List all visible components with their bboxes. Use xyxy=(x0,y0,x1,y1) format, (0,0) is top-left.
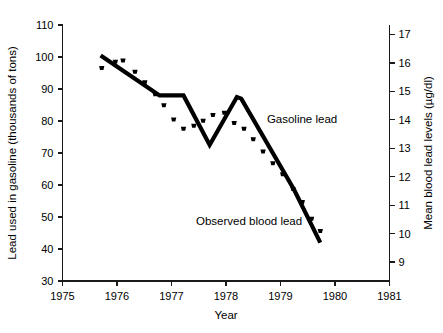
y-axis-left-tick-label: 100 xyxy=(35,51,53,63)
y-axis-left-tick-label: 80 xyxy=(41,115,53,127)
y-axis-left-ticks: 30405060708090100110 xyxy=(35,19,62,287)
annotation-observed-blood-lead: Observed blood lead xyxy=(196,215,302,227)
data-point xyxy=(251,137,256,141)
data-point xyxy=(181,127,186,131)
x-axis-tick-label: 1976 xyxy=(105,290,129,302)
y-axis-left-tick-label: 60 xyxy=(41,179,53,191)
chart-canvas: 30405060708090100110 91011121314151617 1… xyxy=(0,0,443,333)
chart-figure: 30405060708090100110 91011121314151617 1… xyxy=(0,0,443,333)
x-axis-title: Year xyxy=(214,309,237,321)
data-point xyxy=(99,66,104,70)
data-point xyxy=(191,124,196,128)
data-point xyxy=(201,119,206,123)
y-axis-left-tick-label: 50 xyxy=(41,211,53,223)
data-point xyxy=(241,127,246,131)
data-point xyxy=(132,70,137,74)
x-axis-tick-label: 1979 xyxy=(268,290,292,302)
data-point xyxy=(309,217,314,221)
data-point xyxy=(120,58,125,62)
x-axis-ticks: 1975197619771978197919801981 xyxy=(50,281,401,302)
y-axis-right-tick-label: 17 xyxy=(399,28,411,40)
data-point xyxy=(113,60,118,64)
data-point xyxy=(232,121,237,125)
data-point xyxy=(222,111,227,115)
y-axis-left-tick-label: 70 xyxy=(41,147,53,159)
y-axis-right-tick-label: 11 xyxy=(399,199,410,211)
data-point xyxy=(161,103,166,107)
y-axis-right-tick-label: 9 xyxy=(399,256,405,268)
data-point xyxy=(260,149,265,153)
annotation-gasoline-lead: Gasoline lead xyxy=(267,113,337,125)
data-point xyxy=(300,200,305,204)
data-point xyxy=(290,187,295,191)
y-axis-left-tick-label: 110 xyxy=(36,19,54,31)
data-point xyxy=(210,113,215,117)
x-axis-tick-label: 1977 xyxy=(159,290,183,302)
y-axis-left-tick-label: 90 xyxy=(41,83,53,95)
y-axis-right-tick-label: 15 xyxy=(399,85,411,97)
data-point xyxy=(270,161,275,165)
y-axis-right-ticks: 91011121314151617 xyxy=(390,28,411,268)
data-point xyxy=(171,118,176,122)
y-axis-right-tick-label: 12 xyxy=(399,171,411,183)
data-point xyxy=(142,80,147,84)
x-axis-tick-label: 1981 xyxy=(377,290,401,302)
data-point xyxy=(318,229,323,233)
y-axis-right-tick-label: 14 xyxy=(399,114,411,126)
data-point xyxy=(280,172,285,176)
y-axis-left-title: Lead used in gasoline (thousands of tons… xyxy=(6,46,18,260)
y-axis-right-tick-label: 13 xyxy=(399,142,411,154)
x-axis-tick-label: 1978 xyxy=(214,290,238,302)
x-axis-tick-label: 1975 xyxy=(50,290,74,302)
data-point xyxy=(153,92,158,96)
y-axis-right-tick-label: 10 xyxy=(399,228,411,240)
y-axis-left-tick-label: 30 xyxy=(41,275,53,287)
x-axis-tick-label: 1980 xyxy=(323,290,347,302)
y-axis-left-tick-label: 40 xyxy=(41,243,53,255)
y-axis-right-title: Mean blood lead levels (µg/dl) xyxy=(422,76,434,230)
y-axis-right-tick-label: 16 xyxy=(399,57,411,69)
